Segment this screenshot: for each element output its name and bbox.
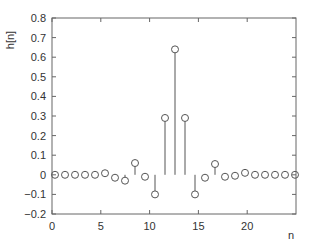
stem-point	[102, 170, 109, 177]
stem-point	[82, 171, 89, 178]
stem-point	[62, 171, 69, 178]
circle-marker-icon	[192, 191, 199, 198]
x-tick-label: 10	[143, 220, 155, 232]
x-tick-label: 0	[49, 220, 55, 232]
circle-marker-icon	[282, 171, 289, 178]
y-tick-label: 0.2	[31, 130, 46, 142]
x-tick-label: 5	[98, 220, 104, 232]
circle-marker-icon	[132, 160, 139, 167]
stem-point	[112, 174, 119, 181]
stem-point	[272, 171, 279, 178]
circle-marker-icon	[122, 177, 129, 184]
y-tick-label: 0.8	[31, 12, 46, 24]
circle-marker-icon	[202, 174, 209, 181]
data-stems	[52, 46, 299, 198]
circle-marker-icon	[142, 173, 149, 180]
stem-point	[202, 174, 209, 181]
circle-marker-icon	[252, 171, 259, 178]
stem-point	[232, 172, 239, 179]
stem-point	[72, 171, 79, 178]
circle-marker-icon	[272, 171, 279, 178]
stem-point	[222, 173, 229, 180]
circle-marker-icon	[232, 172, 239, 179]
y-tick-label: 0.5	[31, 71, 46, 83]
circle-marker-icon	[102, 170, 109, 177]
stem-point	[192, 175, 199, 198]
stem-point	[262, 171, 269, 178]
circle-marker-icon	[242, 169, 249, 176]
y-tick-label: 0.7	[31, 32, 46, 44]
stem-point	[182, 114, 189, 174]
stem-point	[152, 175, 159, 198]
y-tick-label: 0.3	[31, 110, 46, 122]
stem-point	[92, 171, 99, 178]
y-tick-label: −0.2	[24, 208, 46, 220]
circle-marker-icon	[222, 173, 229, 180]
circle-marker-icon	[62, 171, 69, 178]
x-tick-label: 15	[192, 220, 204, 232]
circle-marker-icon	[262, 171, 269, 178]
stem-plot: −0.2−0.100.10.20.30.40.50.60.70.8 051015…	[0, 0, 311, 245]
stem-point	[172, 46, 179, 175]
circle-marker-icon	[112, 174, 119, 181]
y-tick-label: −0.1	[24, 188, 46, 200]
circle-marker-icon	[162, 114, 169, 121]
circle-marker-icon	[152, 191, 159, 198]
circle-marker-icon	[92, 171, 99, 178]
y-tick-label: 0	[40, 169, 46, 181]
circle-marker-icon	[72, 171, 79, 178]
y-tick-label: 0.6	[31, 51, 46, 63]
y-axis-label: h[n]	[4, 31, 16, 49]
circle-marker-icon	[172, 46, 179, 53]
stem-point	[162, 114, 169, 174]
circle-marker-icon	[212, 161, 219, 168]
stem-point	[282, 171, 289, 178]
stem-point	[142, 173, 149, 180]
circle-marker-icon	[182, 114, 189, 121]
y-axis-ticks: −0.2−0.100.10.20.30.40.50.60.70.8	[24, 12, 296, 220]
axes-frame	[52, 18, 296, 214]
y-tick-label: 0.4	[31, 90, 46, 102]
stem-point	[132, 160, 139, 175]
stem-point	[242, 169, 249, 176]
stem-point	[212, 161, 219, 175]
stem-point	[122, 175, 129, 184]
x-tick-label: 20	[241, 220, 253, 232]
circle-marker-icon	[82, 171, 89, 178]
x-axis-label: n	[288, 229, 294, 241]
stem-point	[252, 171, 259, 178]
y-tick-label: 0.1	[31, 149, 46, 161]
x-axis-ticks: 05101520	[49, 18, 253, 232]
